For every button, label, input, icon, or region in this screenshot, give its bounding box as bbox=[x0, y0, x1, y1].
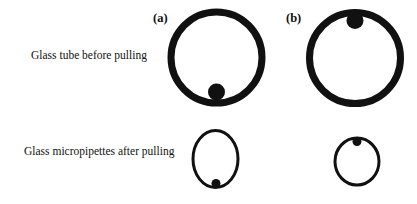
pipette-b-after bbox=[335, 137, 379, 185]
tube-b-before bbox=[310, 12, 401, 104]
diagram bbox=[0, 0, 417, 204]
tube-a-before bbox=[171, 12, 262, 103]
pipette-a-after bbox=[193, 131, 238, 189]
